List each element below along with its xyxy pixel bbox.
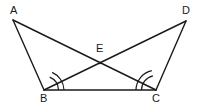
- vertex-label-C: C: [152, 93, 160, 104]
- segment-AB: [13, 20, 44, 90]
- vertex-label-B: B: [40, 93, 48, 104]
- angle-arc-B-inner: [50, 77, 59, 90]
- vertex-label-D: D: [182, 5, 190, 16]
- vertex-label-A: A: [10, 5, 18, 16]
- segment-AC: [13, 20, 156, 90]
- geometry-diagram: A D B C E: [0, 0, 200, 109]
- vertex-label-E: E: [96, 43, 104, 54]
- segment-DB: [44, 21, 186, 90]
- segment-DC: [156, 21, 186, 90]
- figure-canvas: [0, 0, 200, 109]
- intersection-point-E: [99, 62, 101, 64]
- segments-group: [13, 20, 186, 90]
